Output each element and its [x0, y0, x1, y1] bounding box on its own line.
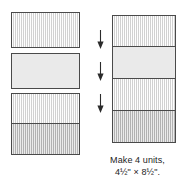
caption-line-1: Make 4 units,: [110, 155, 165, 165]
striped-rectangle-pair-lower: [11, 123, 80, 155]
assembled-unit-column: Make 4 units, 4½" × 8½".: [92, 0, 183, 182]
quilt-piecing-diagram: Make 4 units, 4½" × 8½".: [0, 0, 183, 182]
assembly-arrow-3: [95, 94, 106, 114]
unit-row-2: [112, 46, 176, 79]
plain-rectangle-middle: [11, 53, 80, 89]
striped-rectangle-pair-upper: [11, 93, 80, 124]
assembly-arrow-2: [95, 62, 106, 82]
unit-row-3: [112, 78, 176, 111]
unit-caption: Make 4 units, 4½" × 8½".: [92, 154, 183, 178]
cut-pieces-column: [0, 0, 92, 182]
caption-line-2: 4½" × 8½".: [92, 166, 183, 178]
assembly-arrow-1: [95, 30, 106, 50]
unit-row-1: [112, 15, 176, 47]
unit-row-4: [112, 110, 176, 143]
striped-rectangle-top: [11, 12, 80, 48]
